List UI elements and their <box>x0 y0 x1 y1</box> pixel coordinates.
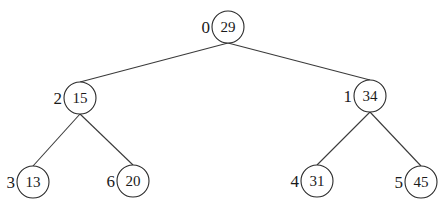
node-value: 15 <box>73 90 88 106</box>
tree-edge <box>80 114 133 165</box>
tree-edge <box>33 114 80 166</box>
node-index-label: 5 <box>395 173 404 192</box>
tree-node: 152 <box>54 82 97 114</box>
node-index-label: 6 <box>107 172 116 191</box>
tree-node: 455 <box>395 166 438 198</box>
node-value: 34 <box>363 88 379 104</box>
tree-node: 341 <box>344 80 387 112</box>
tree-node: 206 <box>107 165 150 197</box>
node-index-label: 2 <box>54 89 63 108</box>
node-index-label: 4 <box>291 172 300 191</box>
node-index-label: 0 <box>202 18 211 37</box>
tree-node: 314 <box>291 165 334 197</box>
tree-edge <box>370 112 421 166</box>
node-value: 20 <box>126 173 141 189</box>
tree-node: 133 <box>7 166 50 198</box>
tree-canvas: 290152341133206314455 <box>0 0 445 210</box>
node-value: 29 <box>221 19 236 35</box>
tree-edge <box>317 112 370 165</box>
tree-edge <box>80 43 228 82</box>
node-index-label: 3 <box>7 173 16 192</box>
node-value: 31 <box>310 173 325 189</box>
tree-node: 290 <box>202 11 245 43</box>
tree-edge <box>228 43 370 80</box>
node-index-label: 1 <box>344 87 353 106</box>
node-value: 13 <box>26 174 41 190</box>
node-value: 45 <box>414 174 429 190</box>
nodes-layer: 290152341133206314455 <box>7 11 438 198</box>
tree-diagram: 290152341133206314455 <box>0 0 445 210</box>
